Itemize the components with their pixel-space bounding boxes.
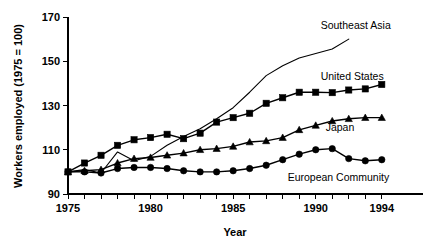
series-marker-square	[197, 130, 203, 136]
x-axis-title: Year	[223, 226, 247, 238]
series-marker-square	[346, 87, 352, 93]
x-tick-label: 1994	[370, 202, 395, 214]
series-marker-circle	[213, 169, 219, 175]
series-marker-circle	[230, 168, 236, 174]
series-marker-circle	[296, 151, 302, 157]
series-marker-square	[98, 152, 104, 158]
series-marker-square	[263, 100, 269, 106]
series-marker-circle	[131, 164, 137, 170]
series-layer	[68, 39, 382, 173]
series-marker-square	[247, 110, 253, 116]
series-marker-square	[181, 136, 187, 142]
series-marker-circle	[114, 165, 120, 171]
series-marker-square	[114, 142, 120, 148]
series-marker-circle	[263, 162, 269, 168]
y-tick-label: 90	[48, 188, 60, 200]
series-marker-circle	[246, 165, 252, 171]
y-tick-label: 170	[42, 11, 60, 23]
series-label-0: Southeast Asia	[321, 19, 391, 31]
series-marker-circle	[98, 170, 104, 176]
series-label-2: Japan	[326, 121, 355, 133]
series-marker-square	[164, 131, 170, 137]
series-marker-triangle	[279, 134, 286, 140]
series-marker-circle	[329, 145, 335, 151]
series-labels-layer: Southeast AsiaUnited StatesJapanEuropean…	[288, 19, 391, 184]
y-tick-label: 150	[42, 55, 60, 67]
series-marker-circle	[362, 158, 368, 164]
y-axis-title: Workers employed (1975 = 100)	[12, 24, 24, 188]
y-tick-label: 110	[42, 144, 60, 156]
y-tick-label: 130	[42, 100, 60, 112]
series-marker-square	[296, 89, 302, 95]
chart-container: 9011013015017019751980198519901994 South…	[0, 0, 447, 242]
series-marker-circle	[197, 169, 203, 175]
series-marker-circle	[65, 169, 71, 175]
series-marker-circle	[346, 155, 352, 161]
series-marker-circle	[164, 165, 170, 171]
series-marker-square	[329, 90, 335, 96]
series-marker-square	[81, 160, 87, 166]
series-marker-square	[313, 89, 319, 95]
series-marker-square	[362, 86, 368, 92]
series-marker-square	[214, 119, 220, 125]
series-marker-circle	[313, 147, 319, 153]
x-tick-label: 1975	[56, 202, 80, 214]
x-tick-label: 1980	[138, 202, 162, 214]
series-marker-circle	[81, 169, 87, 175]
series-marker-circle	[279, 157, 285, 163]
series-label-1: United States	[321, 70, 384, 82]
series-marker-square	[147, 134, 153, 140]
x-tick-label: 1990	[303, 202, 327, 214]
x-tick-label: 1985	[221, 202, 245, 214]
series-marker-circle	[180, 168, 186, 174]
series-marker-circle	[379, 157, 385, 163]
series-marker-circle	[147, 164, 153, 170]
axis-layer	[68, 17, 423, 194]
series-marker-square	[131, 137, 137, 143]
series-label-3: European Community	[288, 171, 390, 183]
chart-axes	[68, 17, 423, 194]
employment-index-line-chart: 9011013015017019751980198519901994 South…	[0, 0, 447, 242]
series-marker-square	[280, 95, 286, 101]
series-marker-square	[379, 81, 385, 87]
axis-tick-labels-layer: 9011013015017019751980198519901994	[42, 11, 395, 214]
series-marker-square	[230, 115, 236, 121]
